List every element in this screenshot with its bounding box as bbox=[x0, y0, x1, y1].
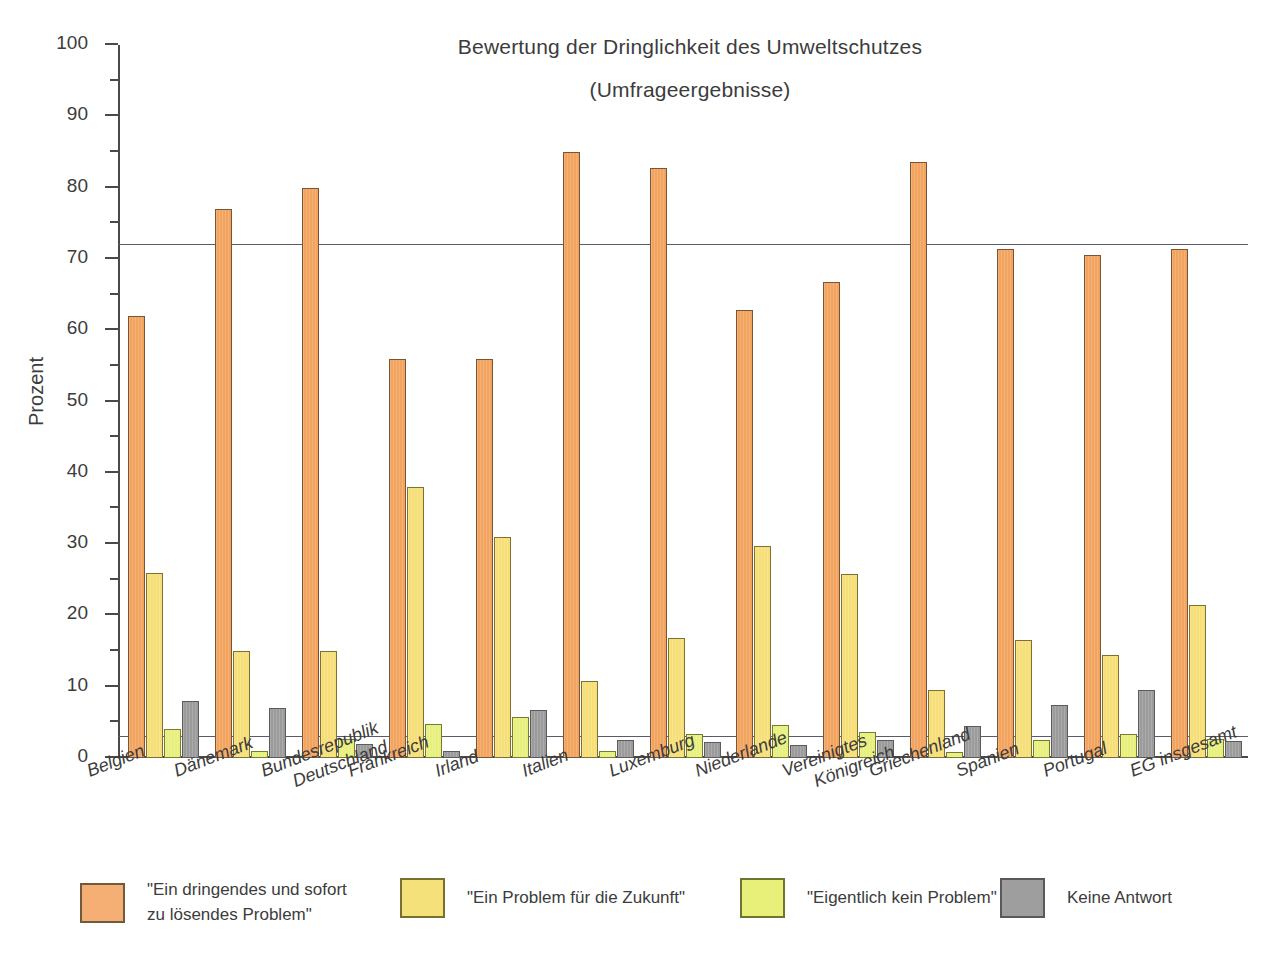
legend-swatch-noproblem bbox=[740, 878, 785, 918]
bar bbox=[146, 573, 163, 758]
y-tick-label: 80 bbox=[67, 174, 88, 196]
y-tick-label: 90 bbox=[67, 103, 88, 125]
category-label-line1: Belgien bbox=[84, 740, 147, 780]
bar bbox=[946, 752, 963, 758]
legend-item[interactable]: Keine Antwort bbox=[1000, 878, 1172, 918]
page-bottom-edge bbox=[0, 958, 1277, 972]
chart-legend: "Ein dringendes und sofort zu lösendes P… bbox=[0, 878, 1277, 948]
y-tick-major: 90 bbox=[105, 114, 118, 116]
legend-item-label: "Eigentlich kein Problem" bbox=[807, 886, 997, 911]
y-tick-major: 40 bbox=[105, 471, 118, 473]
y-tick-minor bbox=[110, 150, 118, 152]
bar-group bbox=[215, 45, 286, 758]
bar-group bbox=[1171, 45, 1242, 758]
legend-swatch-noanswer bbox=[1000, 878, 1045, 918]
bar bbox=[164, 729, 181, 758]
legend-item[interactable]: "Ein Problem für die Zukunft" bbox=[400, 878, 685, 918]
y-axis-line bbox=[118, 45, 120, 758]
bar bbox=[512, 717, 529, 758]
bar bbox=[1033, 740, 1050, 758]
y-tick-major: 20 bbox=[105, 613, 118, 615]
bar-group bbox=[823, 45, 894, 758]
bar bbox=[1120, 734, 1137, 758]
bar bbox=[581, 681, 598, 758]
y-tick-major: 100 bbox=[105, 43, 118, 45]
plot-area: 0102030405060708090100 bbox=[118, 45, 1248, 758]
bar bbox=[997, 249, 1014, 758]
bar-group bbox=[736, 45, 807, 758]
y-tick-label: 50 bbox=[67, 388, 88, 410]
bar bbox=[1138, 690, 1155, 758]
bar bbox=[389, 359, 406, 758]
bar bbox=[215, 209, 232, 758]
y-tick-label: 70 bbox=[67, 245, 88, 267]
bar-group bbox=[1084, 45, 1155, 758]
bar-group bbox=[389, 45, 460, 758]
y-tick-minor bbox=[110, 221, 118, 223]
bar-group bbox=[997, 45, 1068, 758]
bar bbox=[302, 188, 319, 758]
x-axis-category-label: Belgien bbox=[84, 740, 148, 781]
y-tick-minor bbox=[110, 79, 118, 81]
legend-item[interactable]: "Eigentlich kein Problem" bbox=[740, 878, 997, 918]
y-tick-label: 40 bbox=[67, 459, 88, 481]
bar bbox=[841, 574, 858, 758]
bar bbox=[910, 162, 927, 758]
chart-figure: Bewertung der Dringlichkeit des Umweltsc… bbox=[0, 0, 1277, 972]
bar bbox=[269, 708, 286, 758]
y-tick-minor bbox=[110, 649, 118, 651]
bar-group bbox=[563, 45, 634, 758]
bar bbox=[599, 751, 616, 758]
bar bbox=[563, 152, 580, 758]
bar-group bbox=[650, 45, 721, 758]
y-tick-label: 20 bbox=[67, 602, 88, 624]
legend-item-label: Keine Antwort bbox=[1067, 886, 1172, 911]
y-tick-label: 60 bbox=[67, 317, 88, 339]
bar bbox=[494, 537, 511, 758]
y-tick-major: 70 bbox=[105, 257, 118, 259]
bar bbox=[823, 282, 840, 758]
y-tick-label: 100 bbox=[56, 32, 88, 54]
y-tick-major: 80 bbox=[105, 186, 118, 188]
bar bbox=[650, 168, 667, 758]
x-axis-category-labels: BelgienDänemarkBundesrepublikDeutschland… bbox=[118, 762, 1277, 872]
y-tick-major: 30 bbox=[105, 542, 118, 544]
bar bbox=[736, 310, 753, 758]
y-tick-label: 10 bbox=[67, 673, 88, 695]
bar bbox=[407, 487, 424, 758]
y-axis-label: Prozent bbox=[25, 332, 48, 452]
bar bbox=[1015, 640, 1032, 758]
legend-swatch-future bbox=[400, 878, 445, 918]
y-tick-minor bbox=[110, 364, 118, 366]
y-tick-major: 50 bbox=[105, 400, 118, 402]
legend-swatch-urgent bbox=[80, 883, 125, 923]
bar bbox=[128, 316, 145, 758]
y-tick-minor bbox=[110, 720, 118, 722]
y-tick-minor bbox=[110, 435, 118, 437]
legend-item-label: "Ein dringendes und sofort zu lösendes P… bbox=[147, 878, 347, 927]
bar bbox=[1171, 249, 1188, 758]
y-tick-major: 10 bbox=[105, 685, 118, 687]
y-tick-label: 30 bbox=[67, 531, 88, 553]
legend-item-label: "Ein Problem für die Zukunft" bbox=[467, 886, 685, 911]
bar bbox=[1084, 255, 1101, 758]
bar bbox=[1051, 705, 1068, 758]
bar bbox=[182, 701, 199, 758]
y-tick-major: 60 bbox=[105, 328, 118, 330]
bar bbox=[476, 359, 493, 758]
bar-group bbox=[302, 45, 373, 758]
bar-group bbox=[476, 45, 547, 758]
legend-item[interactable]: "Ein dringendes und sofort zu lösendes P… bbox=[80, 878, 347, 927]
bar-group bbox=[910, 45, 981, 758]
y-tick-minor bbox=[110, 578, 118, 580]
bar-group bbox=[128, 45, 199, 758]
bar bbox=[754, 546, 771, 758]
y-tick-minor bbox=[110, 506, 118, 508]
bar bbox=[530, 710, 547, 758]
y-tick-minor bbox=[110, 293, 118, 295]
